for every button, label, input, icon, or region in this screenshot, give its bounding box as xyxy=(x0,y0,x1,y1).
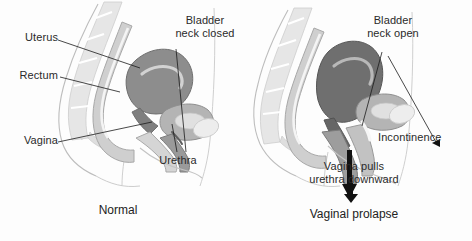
bottom-arrow-icon xyxy=(340,183,362,203)
perineum-contour xyxy=(96,176,140,187)
label-bladder-neck-open-line2: neck open xyxy=(367,27,419,39)
label-bladder-neck-closed-line2: neck closed xyxy=(175,27,234,39)
label-urethra: Urethra xyxy=(152,154,204,167)
label-bladder-neck-closed-line1: Bladder xyxy=(186,14,225,26)
label-rectum: Rectum xyxy=(4,69,58,82)
bottom-arrow-head xyxy=(344,194,358,203)
caption-vaginal-prolapse: Vaginal prolapse xyxy=(284,207,424,221)
label-bladder-neck-closed: Bladder neck closed xyxy=(172,14,238,39)
pelvic-anatomy-figure: Uterus Rectum Vagina Urethra Bladder nec… xyxy=(0,0,472,241)
label-incontinence: Incontinence xyxy=(378,131,442,144)
panel-normal: Uterus Rectum Vagina Urethra Bladder nec… xyxy=(0,0,236,241)
label-vagina-pulls-line1: Vagina pulls xyxy=(324,160,384,172)
panel-prolapse: Bladder neck open Incontinence Vagina pu… xyxy=(236,0,472,241)
prolapse-anatomy-illustration xyxy=(236,0,472,241)
label-bladder-neck-open-line1: Bladder xyxy=(374,14,413,26)
label-uterus: Uterus xyxy=(6,31,58,44)
label-vagina-pulls-urethra: Vagina pulls urethra downward xyxy=(294,160,414,185)
bottom-arrow-shaft xyxy=(348,183,353,195)
label-bladder-neck-open: Bladder neck open xyxy=(360,14,426,39)
label-vagina: Vagina xyxy=(4,134,58,147)
caption-normal: Normal xyxy=(88,203,148,217)
